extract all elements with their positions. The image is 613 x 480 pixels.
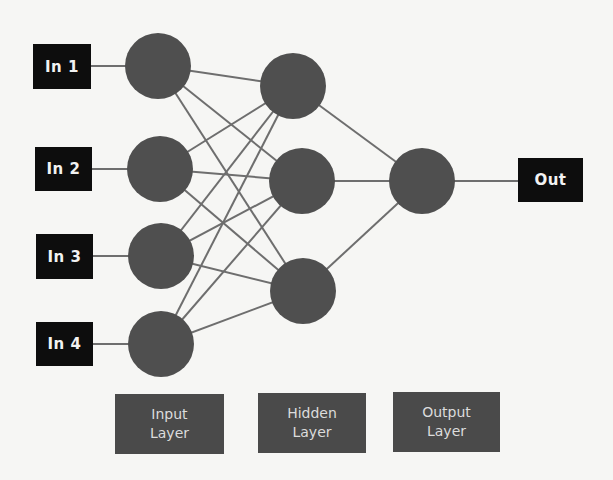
input-box-1: In 1	[33, 44, 91, 89]
input-node-2	[127, 136, 193, 202]
output-layer-line1: Output	[422, 403, 471, 422]
output-node	[389, 148, 455, 214]
hidden-node-2	[269, 148, 335, 214]
hidden-layer-line1: Hidden	[287, 404, 337, 423]
input-layer-label: Input Layer	[115, 394, 224, 454]
hidden-node-1	[260, 53, 326, 119]
input-box-2: In 2	[35, 147, 92, 191]
hidden-layer-label: Hidden Layer	[258, 393, 366, 453]
hidden-node-3	[270, 258, 336, 324]
input-node-1	[125, 33, 191, 99]
nodes	[125, 33, 455, 377]
input-box-4: In 4	[36, 322, 93, 366]
input-node-4	[128, 311, 194, 377]
input-box-3: In 3	[36, 234, 93, 279]
input-label-1: In 1	[45, 58, 79, 76]
output-layer-line2: Layer	[427, 422, 466, 441]
input-label-3: In 3	[48, 248, 82, 266]
input-label-4: In 4	[48, 335, 82, 353]
output-box: Out	[518, 158, 583, 202]
input-layer-line2: Layer	[150, 424, 189, 443]
output-layer-label: Output Layer	[393, 392, 500, 452]
input-node-3	[128, 223, 194, 289]
hidden-layer-line2: Layer	[292, 423, 331, 442]
input-label-2: In 2	[47, 160, 81, 178]
output-label: Out	[534, 171, 566, 189]
input-layer-line1: Input	[151, 405, 187, 424]
